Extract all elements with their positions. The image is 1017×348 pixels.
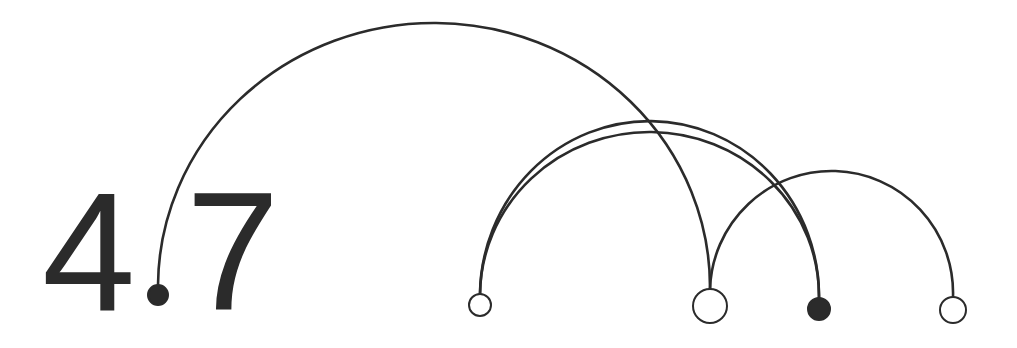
label-fraction-digit: 7 (186, 168, 279, 336)
arc-diagram-canvas (0, 0, 1017, 348)
label-integer-digit: 4 (42, 168, 135, 336)
hollow-node-c (693, 289, 727, 323)
edge-b-d (480, 121, 819, 298)
hollow-node-b (469, 294, 491, 316)
edge-b-d (480, 132, 819, 298)
hollow-node-e (940, 297, 966, 323)
arc-diagram: 4 7 (0, 0, 1017, 348)
filled-node-a (148, 285, 168, 305)
edge-c-e (710, 171, 953, 297)
filled-node-d (808, 298, 830, 320)
